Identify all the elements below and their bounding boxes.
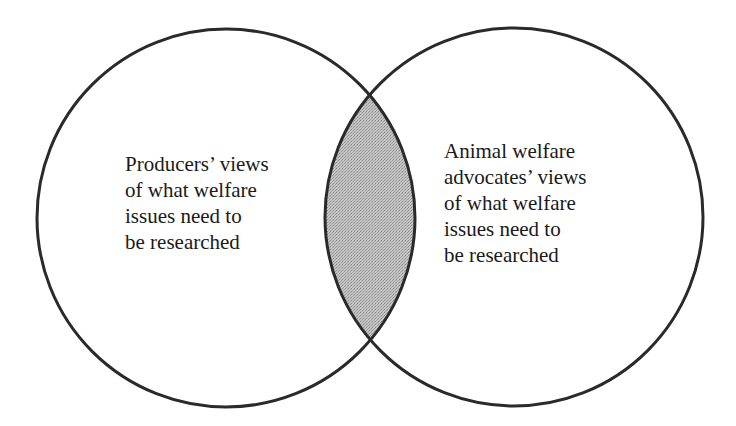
- advocates-label-line: of what welfare: [444, 190, 586, 216]
- producers-label-line: of what welfare: [125, 177, 269, 203]
- producers-label-line: be researched: [125, 229, 269, 255]
- producers-label-line: issues need to: [125, 203, 269, 229]
- venn-diagram: [0, 0, 736, 426]
- advocates-label: Animal welfare advocates’ views of what …: [444, 138, 586, 268]
- advocates-label-line: issues need to: [444, 216, 586, 242]
- producers-label-line: Producers’ views: [125, 151, 269, 177]
- producers-label: Producers’ views of what welfare issues …: [125, 151, 269, 255]
- advocates-label-line: be researched: [444, 242, 586, 268]
- advocates-label-line: Animal welfare: [444, 138, 586, 164]
- advocates-label-line: advocates’ views: [444, 164, 586, 190]
